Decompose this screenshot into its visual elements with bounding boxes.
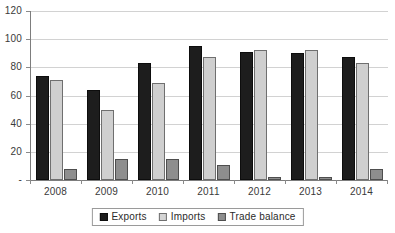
bar	[240, 52, 253, 180]
y-tick-label: 80	[10, 62, 22, 72]
bar-group	[31, 11, 82, 180]
x-tick-mark	[81, 180, 82, 184]
y-tick-label: 40	[10, 119, 22, 129]
bar	[342, 57, 355, 180]
legend-swatch-icon	[217, 213, 225, 221]
y-tick-label: 20	[10, 147, 22, 157]
bar	[138, 63, 151, 180]
chart-legend: ExportsImportsTrade balance	[91, 208, 303, 226]
legend-label: Exports	[111, 211, 146, 222]
y-tick-mark	[26, 39, 30, 40]
bar	[50, 80, 63, 180]
x-tick-label: 2012	[234, 185, 285, 201]
y-tick-mark	[26, 67, 30, 68]
x-tick-mark	[387, 180, 388, 184]
bar	[189, 46, 202, 180]
y-tick-label: 60	[10, 91, 22, 101]
bar	[217, 165, 230, 180]
legend-item[interactable]: Imports	[159, 211, 206, 222]
x-tick-label: 2009	[81, 185, 132, 201]
y-tick-mark	[26, 11, 30, 12]
x-tick-mark	[234, 180, 235, 184]
bar-group	[82, 11, 133, 180]
bar-group	[286, 11, 337, 180]
legend-item[interactable]: Exports	[99, 211, 146, 222]
y-tick-label: -	[18, 175, 22, 185]
bar	[291, 53, 304, 180]
x-tick-label: 2008	[30, 185, 81, 201]
bar-group	[184, 11, 235, 180]
plot-area	[30, 11, 388, 181]
x-tick-label: 2011	[183, 185, 234, 201]
legend-label: Trade balance	[229, 211, 295, 222]
x-axis: 2008200920102011201220132014	[30, 185, 387, 201]
bar	[152, 83, 165, 180]
x-tick-mark	[285, 180, 286, 184]
bar	[254, 50, 267, 180]
x-tick-label: 2014	[336, 185, 387, 201]
y-tick-mark	[26, 124, 30, 125]
bar	[36, 76, 49, 180]
legend-swatch-icon	[99, 213, 107, 221]
x-tick-mark	[30, 180, 31, 184]
x-tick-mark	[132, 180, 133, 184]
bar	[115, 159, 128, 180]
y-tick-mark	[26, 96, 30, 97]
x-tick-label: 2013	[285, 185, 336, 201]
bar	[319, 177, 332, 180]
bar	[356, 63, 369, 180]
y-axis: -20406080100120	[0, 0, 26, 190]
x-tick-mark	[336, 180, 337, 184]
legend-swatch-icon	[159, 213, 167, 221]
bar	[64, 169, 77, 180]
bar	[268, 177, 281, 180]
bar	[101, 110, 114, 180]
bar	[87, 90, 100, 180]
legend-label: Imports	[171, 211, 206, 222]
x-tick-label: 2010	[132, 185, 183, 201]
bar-group	[235, 11, 286, 180]
bar	[203, 57, 216, 180]
plot-wrapper: -20406080100120 200820092010201120122013…	[0, 0, 395, 190]
legend-item[interactable]: Trade balance	[217, 211, 295, 222]
bar	[305, 50, 318, 180]
y-tick-label: 120	[5, 6, 22, 16]
bar-groups	[31, 11, 388, 180]
bar-group	[133, 11, 184, 180]
bar-group	[337, 11, 388, 180]
bar	[166, 159, 179, 180]
x-tick-mark	[183, 180, 184, 184]
bar	[370, 169, 383, 180]
bar-chart: -20406080100120 200820092010201120122013…	[0, 0, 395, 233]
y-tick-mark	[26, 152, 30, 153]
y-tick-label: 100	[5, 34, 22, 44]
